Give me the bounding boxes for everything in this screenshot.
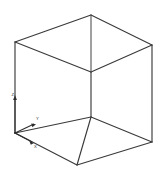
axis-y-label: Y [36, 116, 39, 121]
wireframe-cube-viewport[interactable]: Z Y X [0, 0, 163, 172]
axis-x-label: X [34, 144, 37, 149]
axis-z-label: Z [12, 92, 15, 97]
axis-origin-marker [14, 132, 16, 134]
cad-drawing-canvas[interactable]: Z Y X [0, 0, 163, 172]
